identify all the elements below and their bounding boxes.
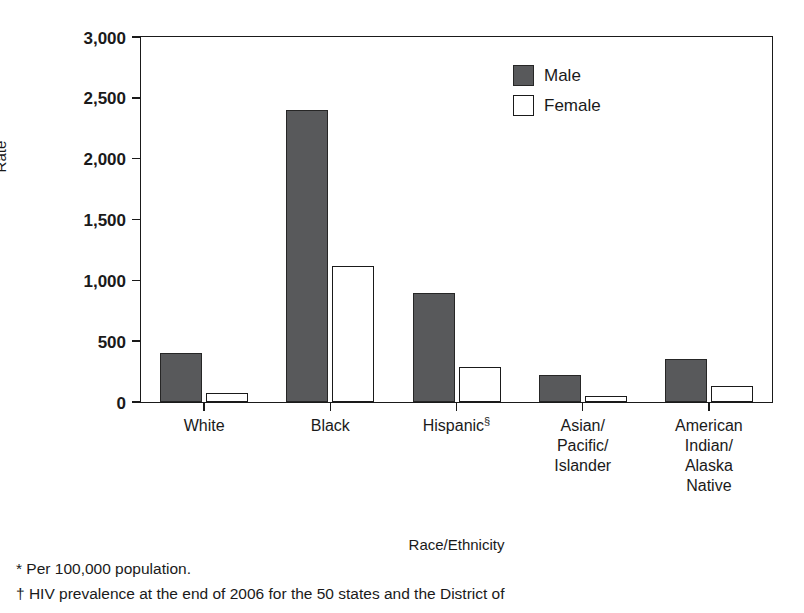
x-axis-tick-mark: [582, 402, 584, 411]
bar-female: [585, 396, 627, 402]
y-axis-tick-label: 1,000: [83, 272, 132, 289]
bar-female: [332, 266, 374, 402]
bar-female: [459, 367, 501, 402]
y-axis-title: Rate: [0, 87, 9, 227]
y-axis-tick-mark: [132, 219, 141, 221]
y-axis-tick-mark: [132, 36, 141, 38]
legend-label-female: Female: [544, 97, 601, 114]
x-axis-category-line: Pacific/: [520, 436, 646, 456]
footnote-2: † HIV prevalence at the end of 2006 for …: [16, 581, 796, 606]
x-axis-category-line: Hispanic§: [393, 416, 519, 436]
y-axis-tick-mark: [132, 158, 141, 160]
y-axis-tick-label: 1,500: [83, 212, 132, 229]
y-axis-tick-label: 2,000: [83, 151, 132, 168]
bar-male: [413, 293, 455, 403]
x-axis-category-line: Asian/: [520, 416, 646, 436]
y-axis-tick-label: 3,000: [83, 29, 132, 46]
x-axis-category-label: Black: [267, 416, 393, 436]
legend-swatch-female-icon: [513, 95, 534, 116]
x-axis-tick-mark: [456, 402, 458, 411]
x-axis-category-line: American: [646, 416, 772, 436]
x-axis-category-label: AmericanIndian/AlaskaNative: [646, 416, 772, 497]
x-axis-category-line: Native: [646, 476, 772, 496]
chart-figure: Rate 05001,0001,5002,0002,5003,000 White…: [0, 0, 804, 613]
y-axis-tick-label: 2,500: [83, 90, 132, 107]
y-axis-tick-mark: [132, 401, 141, 403]
bar-male: [160, 353, 202, 402]
x-axis-category-label: Asian/Pacific/Islander: [520, 416, 646, 476]
legend-swatch-male-icon: [513, 65, 534, 86]
bar-male: [539, 375, 581, 402]
bar-male: [665, 359, 707, 402]
x-axis-tick-mark: [330, 402, 332, 411]
plot-area: 05001,0001,5002,0002,5003,000 WhiteBlack…: [140, 36, 773, 403]
legend-item-female: Female: [513, 95, 601, 116]
bar-female: [711, 386, 753, 402]
y-axis-tick-mark: [132, 340, 141, 342]
x-axis-tick-mark: [708, 402, 710, 411]
x-axis-title: Race/Ethnicity: [140, 536, 773, 553]
x-axis-category-label: White: [141, 416, 267, 436]
footnote-1: * Per 100,000 population.: [16, 556, 796, 581]
x-axis-category-line: Indian/: [646, 436, 772, 456]
chart-legend: Male Female: [513, 65, 601, 116]
y-axis-tick-label: 500: [98, 333, 132, 350]
x-axis-category-marker: §: [484, 415, 490, 427]
x-axis-category-line: White: [141, 416, 267, 436]
legend-item-male: Male: [513, 65, 601, 86]
x-axis-category-line: Black: [267, 416, 393, 436]
y-axis-tick-mark: [132, 97, 141, 99]
bar-female: [206, 393, 248, 402]
x-axis-tick-mark: [203, 402, 205, 411]
legend-label-male: Male: [544, 67, 581, 84]
x-axis-category-label: Hispanic§: [393, 416, 519, 436]
y-axis-tick-mark: [132, 280, 141, 282]
footnotes: * Per 100,000 population. † HIV prevalen…: [16, 556, 796, 606]
bar-male: [286, 110, 328, 402]
y-axis-tick-label: 0: [117, 394, 132, 411]
x-axis-category-line: Alaska: [646, 456, 772, 476]
x-axis-category-line: Islander: [520, 456, 646, 476]
